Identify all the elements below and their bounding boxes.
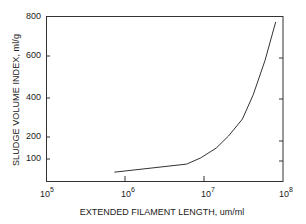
x-tick-label-1e8: 108 [279,187,293,199]
x-tick-exp: 8 [289,186,293,193]
y-ticks-right [279,58,283,161]
data-line [114,22,275,172]
x-tick-base: 10 [201,189,211,199]
y-tick-label-800: 800 [19,11,41,21]
y-tick-label-600: 600 [19,50,41,60]
x-tick-exp: 5 [50,186,54,193]
y-tick-label-200: 200 [19,131,41,141]
x-ticks [125,176,204,182]
x-tick-label-1e6: 106 [121,187,135,199]
x-tick-base: 10 [40,189,50,199]
x-tick-exp: 7 [211,186,215,193]
x-tick-base: 10 [121,189,131,199]
y-tick-label-100: 100 [19,153,41,163]
x-axis-label: EXTENDED FILAMENT LENGTH, um/ml [0,207,306,217]
x-tick-label-1e7: 107 [201,187,215,199]
x-tick-label-1e5: 105 [40,187,54,199]
plot-frame [47,17,284,182]
y-tick-label-400: 400 [19,92,41,102]
y-ticks-left [47,56,51,159]
x-tick-base: 10 [279,189,289,199]
x-tick-exp: 6 [131,186,135,193]
